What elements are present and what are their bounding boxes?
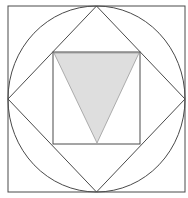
figure-canvas bbox=[0, 0, 188, 198]
geometry-figure bbox=[0, 0, 188, 198]
shaded-triangle bbox=[54, 53, 139, 143]
